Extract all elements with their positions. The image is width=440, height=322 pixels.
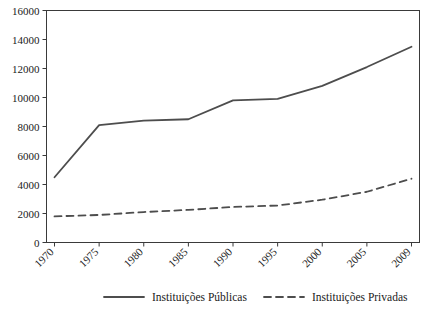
y-tick-label: 16000 (12, 5, 40, 17)
y-tick-label: 10000 (12, 92, 40, 104)
x-tick-label: 1980 (121, 245, 145, 269)
y-tick-label: 0 (34, 237, 40, 249)
y-tick-label: 2000 (18, 208, 41, 220)
x-tick-label: 1985 (166, 245, 190, 269)
x-tick-label: 1995 (255, 245, 279, 269)
y-axis-tick-labels: 0200040006000800010000120001400016000 (12, 5, 40, 249)
legend-label-2: Instituições Privadas (312, 291, 408, 304)
y-tick-label: 12000 (12, 63, 40, 75)
y-tick-label: 4000 (18, 179, 41, 191)
y-axis-ticks (43, 11, 47, 243)
y-tick-label: 14000 (12, 34, 40, 46)
chart-container: 0200040006000800010000120001400016000 19… (0, 0, 440, 322)
y-tick-label: 6000 (18, 150, 41, 162)
x-tick-label: 1975 (76, 245, 100, 269)
x-tick-label: 2005 (344, 245, 368, 269)
legend-label-1: Instituições Públicas (152, 291, 247, 304)
x-tick-label: 1990 (210, 245, 234, 269)
x-tick-label: 2009 (389, 245, 413, 269)
plot-area-frame (47, 11, 420, 243)
x-axis-tick-labels: 197019751980198519901995200020052009 (32, 245, 413, 269)
x-tick-label: 1970 (32, 245, 56, 269)
line-chart: 0200040006000800010000120001400016000 19… (0, 0, 440, 322)
y-tick-label: 8000 (18, 121, 41, 133)
x-tick-label: 2000 (300, 245, 324, 269)
